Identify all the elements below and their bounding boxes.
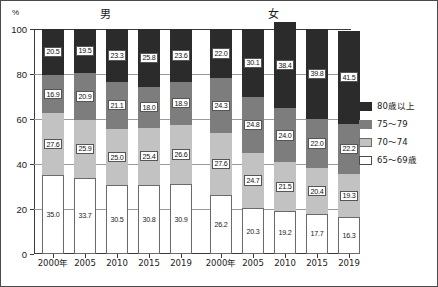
y-tick-label-80: 80 xyxy=(16,70,27,79)
bar-value-label: 26.6 xyxy=(172,149,189,159)
bar-female-2000[interactable]: 26.227.624.322.0 xyxy=(210,29,232,254)
bar-segment-female-80-2019[interactable]: 41.5 xyxy=(338,31,360,124)
bar-segment-female-7579-2005[interactable]: 24.8 xyxy=(242,97,264,153)
legend-item-7579[interactable]: 75〜79 xyxy=(359,119,433,130)
bar-segment-male-7579-2000[interactable]: 16.9 xyxy=(42,75,64,113)
bar-value-label: 35.0 xyxy=(46,211,59,218)
bar-segment-female-7074-2005[interactable]: 24.7 xyxy=(242,153,264,209)
bar-segment-male-7074-2005[interactable]: 25.9 xyxy=(74,120,96,178)
bar-segment-female-6569-2015[interactable]: 17.7 xyxy=(306,214,328,254)
bar-female-2015[interactable]: 17.720.422.039.8 xyxy=(306,29,328,254)
bar-segment-male-7074-2019[interactable]: 26.6 xyxy=(170,125,192,185)
bar-segment-male-80-2019[interactable]: 23.6 xyxy=(170,29,192,82)
bar-value-label: 25.8 xyxy=(140,53,157,63)
x-tick-label-male-2019: 2019 xyxy=(160,259,202,268)
bar-segment-female-7579-2019[interactable]: 22.2 xyxy=(338,124,360,174)
chart-frame: % 100 80 60 40 20 0 男 女 35.027.616.920.5… xyxy=(0,0,438,287)
y-axis-unit: % xyxy=(12,9,19,17)
bar-segment-female-6569-2000[interactable]: 26.2 xyxy=(210,195,232,254)
bar-segment-male-80-2015[interactable]: 25.8 xyxy=(138,29,160,87)
bar-female-2010[interactable]: 19.221.524.038.4 xyxy=(274,29,296,254)
bar-segment-female-80-2010[interactable]: 38.4 xyxy=(274,22,296,108)
bar-value-label: 26.2 xyxy=(214,221,227,228)
bar-segment-male-6569-2005[interactable]: 33.7 xyxy=(74,178,96,254)
legend-label-7579: 75〜79 xyxy=(377,120,408,129)
bar-segment-male-7579-2019[interactable]: 18.9 xyxy=(170,82,192,125)
bar-female-2019[interactable]: 16.319.322.241.5 xyxy=(338,29,360,254)
bar-segment-female-7074-2019[interactable]: 19.3 xyxy=(338,174,360,217)
bar-value-label: 21.5 xyxy=(276,182,293,192)
bar-segment-male-7074-2010[interactable]: 25.0 xyxy=(106,129,128,185)
bar-segment-female-7579-2015[interactable]: 22.0 xyxy=(306,119,328,169)
bar-value-label: 23.6 xyxy=(172,50,189,60)
legend-item-7074[interactable]: 70〜74 xyxy=(359,137,433,148)
bar-segment-female-7579-2010[interactable]: 24.0 xyxy=(274,108,296,162)
bar-segment-female-80-2005[interactable]: 30.1 xyxy=(242,29,264,97)
bar-segment-male-7074-2000[interactable]: 27.6 xyxy=(42,113,64,175)
bar-value-label: 25.9 xyxy=(76,144,93,154)
bar-value-label: 24.7 xyxy=(244,175,261,185)
legend-swatch-80plus xyxy=(359,102,372,111)
bar-segment-male-6569-2019[interactable]: 30.9 xyxy=(170,184,192,254)
bar-value-label: 16.9 xyxy=(44,89,61,99)
bar-segment-female-80-2015[interactable]: 39.8 xyxy=(306,29,328,119)
panel-title-female: 女 xyxy=(253,9,293,20)
bar-segment-female-6569-2010[interactable]: 19.2 xyxy=(274,211,296,254)
bar-segment-male-7579-2015[interactable]: 18.0 xyxy=(138,87,160,128)
bar-segment-female-7074-2015[interactable]: 20.4 xyxy=(306,168,328,214)
bar-segment-male-6569-2000[interactable]: 35.0 xyxy=(42,175,64,254)
plot-area: 35.027.616.920.533.725.920.919.530.525.0… xyxy=(34,29,351,254)
bar-value-label: 25.4 xyxy=(140,151,157,161)
bar-segment-male-7579-2005[interactable]: 20.9 xyxy=(74,73,96,120)
bar-value-label: 19.3 xyxy=(340,191,357,201)
bar-value-label: 20.3 xyxy=(246,228,259,235)
x-tick-label-female-2019: 2019 xyxy=(328,259,370,268)
bar-male-2000[interactable]: 35.027.616.920.5 xyxy=(42,29,64,254)
y-axis: 100 80 60 40 20 0 xyxy=(1,21,34,254)
bar-value-label: 30.5 xyxy=(110,216,123,223)
legend-swatch-6569 xyxy=(359,156,372,165)
bar-segment-female-7074-2000[interactable]: 27.6 xyxy=(210,133,232,195)
legend-label-6569: 65〜69歳 xyxy=(377,156,417,165)
bar-value-label: 24.3 xyxy=(212,101,229,111)
bar-male-2019[interactable]: 30.926.618.923.6 xyxy=(170,29,192,254)
bar-value-label: 20.4 xyxy=(308,186,325,196)
y-tick-label-40: 40 xyxy=(16,160,27,169)
bar-segment-female-80-2000[interactable]: 22.0 xyxy=(210,29,232,79)
bar-segment-male-80-2010[interactable]: 23.3 xyxy=(106,29,128,81)
bar-segment-male-80-2005[interactable]: 19.5 xyxy=(74,29,96,73)
bar-value-label: 22.0 xyxy=(308,138,325,148)
bar-female-2005[interactable]: 20.324.724.830.1 xyxy=(242,29,264,254)
legend-swatch-7074 xyxy=(359,138,372,147)
bar-value-label: 16.3 xyxy=(342,232,355,239)
bar-segment-male-80-2000[interactable]: 20.5 xyxy=(42,29,64,75)
bar-male-2005[interactable]: 33.725.920.919.5 xyxy=(74,29,96,254)
y-tick-label-100: 100 xyxy=(11,25,27,34)
bar-value-label: 38.4 xyxy=(276,60,293,70)
bar-value-label: 30.1 xyxy=(244,58,261,68)
legend-item-6569[interactable]: 65〜69歳 xyxy=(359,155,433,166)
bar-value-label: 21.1 xyxy=(108,100,125,110)
bar-segment-male-7579-2010[interactable]: 21.1 xyxy=(106,82,128,129)
bar-segment-female-7074-2010[interactable]: 21.5 xyxy=(274,162,296,210)
bar-value-label: 17.7 xyxy=(310,230,323,237)
bar-value-label: 18.9 xyxy=(172,98,189,108)
bar-segment-male-6569-2015[interactable]: 30.8 xyxy=(138,185,160,254)
legend-item-80plus[interactable]: 80歳以上 xyxy=(359,101,433,112)
bar-segment-female-7579-2000[interactable]: 24.3 xyxy=(210,78,232,133)
bar-value-label: 24.0 xyxy=(276,130,293,140)
bar-segment-female-6569-2005[interactable]: 20.3 xyxy=(242,208,264,254)
bar-male-2015[interactable]: 30.825.418.025.8 xyxy=(138,29,160,254)
bar-segment-male-6569-2010[interactable]: 30.5 xyxy=(106,185,128,254)
bar-segment-male-7074-2015[interactable]: 25.4 xyxy=(138,128,160,185)
bar-value-label: 30.8 xyxy=(142,216,155,223)
bar-male-2010[interactable]: 30.525.021.123.3 xyxy=(106,29,128,254)
bar-value-label: 18.0 xyxy=(140,102,157,112)
y-tick-label-0: 0 xyxy=(22,250,27,259)
bar-value-label: 27.6 xyxy=(44,139,61,149)
bar-value-label: 24.8 xyxy=(244,120,261,130)
bar-value-label: 22.0 xyxy=(212,48,229,58)
y-tick-label-60: 60 xyxy=(16,115,27,124)
bar-segment-female-6569-2019[interactable]: 16.3 xyxy=(338,217,360,254)
bar-value-label: 41.5 xyxy=(340,72,357,82)
